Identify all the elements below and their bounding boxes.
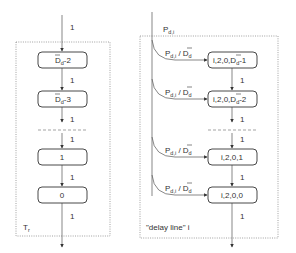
state-label: i,2,0,1 xyxy=(221,153,243,162)
left-rate-4: 1 xyxy=(70,173,75,182)
delay-line-diagram: 1 1 1 1 1 1 Dd-2 Dd-3 1 0 Tr Pd,i xyxy=(0,0,296,253)
left-rate-1: 1 xyxy=(70,76,75,85)
right-branch-label-4: Pd,i / Dd xyxy=(165,184,192,194)
left-rate-5: 1 xyxy=(70,212,75,221)
right-rate-2: 1 xyxy=(240,115,245,124)
right-chain: Pd,i Pd,i / Dd Pd,i / Dd Pd,i / Dd Pd,i … xyxy=(140,12,278,247)
right-rate-1: 1 xyxy=(240,76,245,85)
left-state-3: 0 xyxy=(38,187,87,203)
state-label: i,2,0,Dd-1 xyxy=(213,56,247,66)
state-label: i,2,0,Dd-2 xyxy=(213,95,247,105)
left-container-border xyxy=(16,42,110,236)
right-branch-label-1: Pd,i / Dd xyxy=(165,49,192,59)
right-rate-3: 1 xyxy=(240,135,245,144)
left-rate-3: 1 xyxy=(70,135,75,144)
right-input-label: Pd,i xyxy=(163,25,174,35)
left-container-label: Tr xyxy=(23,223,30,233)
state-label: 1 xyxy=(60,153,65,162)
right-rate-5: 1 xyxy=(240,212,245,221)
right-state-2: i,2,0,1 xyxy=(208,149,257,165)
right-container-label: "delay line" i xyxy=(146,223,190,232)
right-state-0: i,2,0,Dd-1 xyxy=(208,52,257,68)
left-state-2: 1 xyxy=(38,149,87,165)
state-label: Dd-3 xyxy=(55,95,72,105)
state-label: Dd-2 xyxy=(55,56,72,66)
right-state-3: i,2,0,0 xyxy=(208,187,257,203)
left-rate-2: 1 xyxy=(70,115,75,124)
right-state-1: i,2,0,Dd-2 xyxy=(208,91,257,107)
left-state-1: Dd-3 xyxy=(38,91,87,107)
right-branch-label-2: Pd,i / Dd xyxy=(165,88,192,98)
left-state-0: Dd-2 xyxy=(38,52,87,68)
right-rate-4: 1 xyxy=(240,173,245,182)
state-label: 0 xyxy=(60,191,65,200)
left-chain: 1 1 1 1 1 1 Dd-2 Dd-3 1 0 Tr xyxy=(16,15,110,247)
state-label: i,2,0,0 xyxy=(221,191,243,200)
left-rate-input: 1 xyxy=(70,23,75,32)
right-branch-label-3: Pd,i / Dd xyxy=(165,146,192,156)
